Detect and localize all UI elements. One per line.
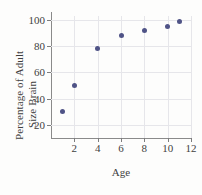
- scatter-chart-figure: Percentage of Adult Size Brain 204060801…: [0, 0, 202, 195]
- gridline-vertical: [168, 16, 169, 138]
- y-axis-tick: [47, 99, 51, 100]
- y-axis-title: Percentage of Adult Size Brain: [0, 0, 30, 150]
- x-axis-title: Age: [51, 166, 191, 178]
- y-axis-title-line-1: Percentage of Adult: [13, 51, 25, 140]
- data-point: [95, 46, 100, 51]
- x-axis-tick-label: 6: [118, 142, 124, 154]
- y-axis-tick-label: 40: [34, 93, 45, 105]
- data-point: [177, 19, 182, 24]
- gridline-vertical: [144, 16, 145, 138]
- y-axis-tick-label: 100: [29, 14, 46, 26]
- y-axis-tick: [47, 72, 51, 73]
- data-point: [72, 83, 77, 88]
- y-axis-tick-label: 80: [34, 40, 45, 52]
- gridline-vertical: [98, 16, 99, 138]
- x-axis-tick-label: 2: [72, 142, 78, 154]
- y-axis-line: [51, 12, 52, 138]
- y-axis-tick: [47, 125, 51, 126]
- data-point: [119, 33, 124, 38]
- x-axis-tick-label: 10: [162, 142, 173, 154]
- data-point: [60, 109, 65, 114]
- x-axis-tick-label: 12: [186, 142, 197, 154]
- gridline-vertical: [191, 16, 192, 138]
- plot-area: 20406080100 24681012: [51, 16, 191, 138]
- gridline-vertical: [74, 16, 75, 138]
- x-axis-tick-label: 8: [142, 142, 148, 154]
- x-axis-tick-label: 4: [95, 142, 101, 154]
- data-point: [165, 24, 170, 29]
- data-point: [142, 28, 147, 33]
- y-axis-tick-label: 20: [34, 119, 45, 131]
- y-axis-tick: [47, 20, 51, 21]
- y-axis-tick-label: 60: [34, 66, 45, 78]
- y-axis-tick: [47, 46, 51, 47]
